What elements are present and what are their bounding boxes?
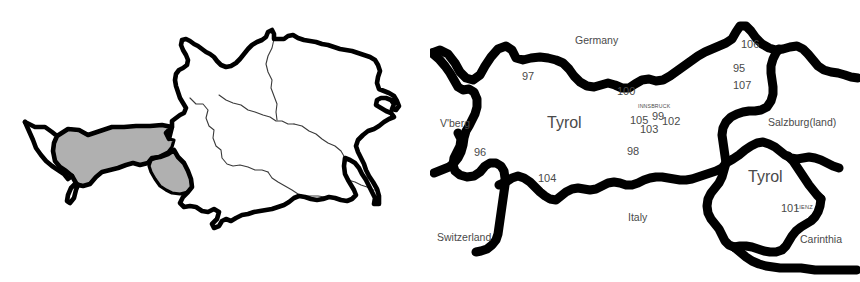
label-switzerland: Switzerland [437,231,491,243]
site-number-96: 96 [474,146,486,158]
site-number-106: 106 [741,38,759,50]
site-number-97: 97 [522,70,534,82]
site-number-100: 100 [617,85,635,97]
site-number-104: 104 [538,172,556,184]
label-carinthia: Carinthia [800,233,842,245]
site-number-102: 102 [662,115,680,127]
border-south-italy [499,163,726,200]
label-tyrol-east: Tyrol [748,168,783,185]
label-innsbruck: INNSBRUCK [638,103,671,109]
site-number-98: 98 [627,145,639,157]
site-number-107: 107 [733,79,751,91]
label-tyrol-north: Tyrol [547,114,582,131]
label-germany: Germany [575,34,619,46]
border-north-germany [432,26,858,88]
austria-overview-map [0,0,430,282]
border-east-tyrol-north [726,142,839,168]
two-panel-map-figure: Germany V'berg Switzerland Italy Salzbur… [0,0,860,282]
label-vorarlberg: V'berg [440,117,470,129]
site-number-103: 103 [640,123,658,135]
site-number-95: 95 [733,62,745,74]
label-salzburgland: Salzburg(land) [768,116,836,128]
label-italy: Italy [628,211,648,223]
site-number-101: 101 [781,202,799,214]
tyrol-detail-map: Germany V'berg Switzerland Italy Salzbur… [430,0,860,282]
